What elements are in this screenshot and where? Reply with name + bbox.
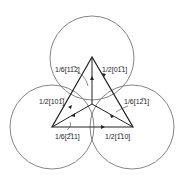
vector-label: 1/6[2̅11] xyxy=(55,133,80,141)
vector-label: 1/2[1̅10] xyxy=(105,133,130,141)
vector-label: 1/6[12̅1] xyxy=(124,98,149,106)
arrow-head xyxy=(71,113,75,117)
arrow-head xyxy=(90,76,94,80)
vector-label: 1/2[01̅1] xyxy=(102,66,127,74)
leader-line xyxy=(76,71,88,86)
leader-line xyxy=(67,122,71,130)
arrow-head xyxy=(68,105,72,109)
burgers-vector-diagram: 1/6[11̅2] 1/2[01̅1] 1/2[101̅] 1/6[12̅1] … xyxy=(0,0,183,181)
arrow-head xyxy=(101,125,105,129)
vector-label: 1/6[11̅2] xyxy=(55,66,80,74)
vector-label: 1/2[101̅] xyxy=(39,98,65,106)
